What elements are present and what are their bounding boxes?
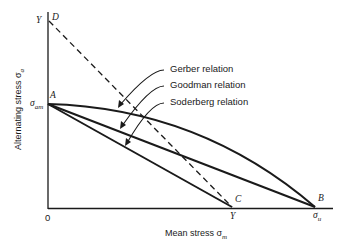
y-axis-title: Alternating stress σa	[13, 69, 26, 150]
point-b-label: B	[318, 193, 324, 203]
point-c-label: C	[235, 194, 241, 204]
tick-y-top: Y	[36, 15, 41, 25]
tick-sigma-am: σam	[30, 98, 43, 111]
origin-label: 0	[45, 212, 50, 223]
gerber-label: Gerber relation	[170, 63, 233, 74]
soderberg-label: Soderberg relation	[170, 96, 248, 107]
x-axis-title: Mean stress σm	[165, 228, 227, 241]
point-d-label: D	[52, 12, 59, 22]
point-a-label: A	[50, 90, 56, 100]
tick-x-yield: Y	[230, 211, 235, 221]
soderberg-line	[48, 104, 232, 207]
tick-sigma-u: σu	[313, 210, 321, 223]
goodman-label: Goodman relation	[170, 79, 246, 90]
soderberg-arrow-icon	[125, 138, 131, 146]
goodman-line	[48, 104, 315, 207]
diagram-canvas	[0, 0, 348, 246]
